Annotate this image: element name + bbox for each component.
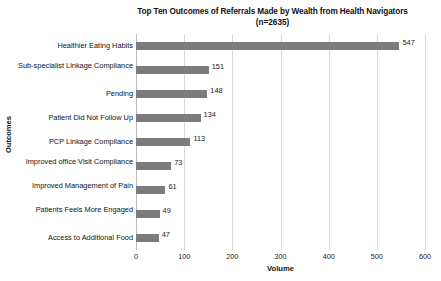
x-tick-label: 500 bbox=[371, 252, 383, 261]
bar-value-label: 61 bbox=[168, 182, 176, 191]
plot-area: 54715114813411373614947 bbox=[136, 34, 425, 250]
category-label: Patient Did Not Follow Up bbox=[3, 113, 133, 122]
bar-row: 47 bbox=[136, 226, 425, 250]
category-label: Sub-specialist Linkage Compliance bbox=[3, 61, 133, 70]
bar-value-label: 148 bbox=[210, 86, 222, 95]
category-label: Patients Feels More Engaged bbox=[3, 205, 133, 214]
bar-value-label: 151 bbox=[212, 62, 224, 71]
x-tick-label: 100 bbox=[178, 252, 190, 261]
bar bbox=[136, 138, 190, 146]
bar-row: 49 bbox=[136, 202, 425, 226]
x-tick-label: 600 bbox=[419, 252, 431, 261]
y-axis-tick-labels: Healthier Eating HabitsSub-specialist Li… bbox=[2, 34, 133, 250]
bar bbox=[136, 210, 160, 218]
bar bbox=[136, 66, 209, 74]
bar bbox=[136, 162, 171, 170]
category-label: Improved office Visit Compliance bbox=[3, 157, 133, 166]
chart-title: Top Ten Outcomes of Referrals Made by We… bbox=[110, 6, 435, 17]
bar-value-label: 113 bbox=[193, 134, 205, 143]
bar bbox=[136, 234, 159, 242]
category-label: Improved Management of Pain bbox=[3, 181, 133, 190]
bar bbox=[136, 186, 165, 194]
gridline bbox=[425, 34, 426, 250]
x-axis-tick-labels: 0100200300400500600 bbox=[136, 252, 425, 264]
bar-value-label: 73 bbox=[174, 158, 182, 167]
bar-row: 547 bbox=[136, 34, 425, 58]
bar bbox=[136, 90, 207, 98]
bar bbox=[136, 114, 201, 122]
x-tick-label: 300 bbox=[275, 252, 287, 261]
category-label: PCP Linkage Compliance bbox=[3, 137, 133, 146]
bar bbox=[136, 42, 399, 50]
bar-row: 148 bbox=[136, 82, 425, 106]
bar-row: 73 bbox=[136, 154, 425, 178]
category-label: Pending bbox=[3, 89, 133, 98]
x-tick-label: 400 bbox=[323, 252, 335, 261]
x-tick-label: 200 bbox=[226, 252, 238, 261]
category-label: Access to Additional Food bbox=[3, 233, 133, 242]
bar-row: 134 bbox=[136, 106, 425, 130]
bar-value-label: 47 bbox=[162, 230, 170, 239]
bar-value-label: 49 bbox=[163, 206, 171, 215]
chart-subtitle: (n=2635) bbox=[110, 17, 435, 28]
bar-value-label: 547 bbox=[402, 38, 414, 47]
bar-chart: Top Ten Outcomes of Referrals Made by We… bbox=[0, 0, 441, 281]
bar-row: 61 bbox=[136, 178, 425, 202]
bar-value-label: 134 bbox=[204, 110, 216, 119]
bar-row: 113 bbox=[136, 130, 425, 154]
category-label: Healthier Eating Habits bbox=[3, 41, 133, 50]
x-tick-label: 0 bbox=[134, 252, 138, 261]
x-axis-title: Volume bbox=[136, 264, 425, 273]
bar-row: 151 bbox=[136, 58, 425, 82]
